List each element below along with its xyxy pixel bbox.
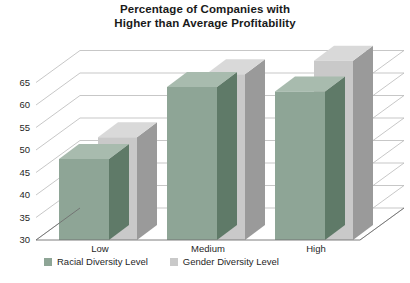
y-axis-tick-60: 60	[4, 100, 30, 110]
bar-racial-medium	[167, 72, 237, 240]
chart-plot-area	[0, 0, 410, 283]
y-axis-tick-45: 45	[4, 168, 30, 178]
bars-group	[59, 46, 373, 240]
legend-label: Racial Diversity Level	[57, 257, 148, 267]
bar-racial-low	[59, 144, 129, 240]
legend-swatch-icon	[44, 258, 52, 266]
chart-legend: Racial Diversity LevelGender Diversity L…	[44, 257, 279, 267]
bar-racial-high	[275, 77, 345, 241]
legend-entry-gender[interactable]: Gender Diversity Level	[170, 257, 279, 267]
legend-swatch-icon	[170, 258, 178, 266]
x-axis-tick-low: Low	[60, 243, 140, 254]
legend-entry-racial[interactable]: Racial Diversity Level	[44, 257, 148, 267]
x-axis-tick-high: High	[276, 243, 356, 254]
y-axis-tick-40: 40	[4, 190, 30, 200]
x-axis-tick-medium: Medium	[168, 243, 248, 254]
chart-canvas	[0, 0, 410, 283]
legend-label: Gender Diversity Level	[183, 257, 279, 267]
y-axis-tick-50: 50	[4, 145, 30, 155]
y-axis-tick-65: 65	[4, 78, 30, 88]
y-axis-tick-30: 30	[4, 235, 30, 245]
y-axis-tick-55: 55	[4, 123, 30, 133]
y-axis-tick-35: 35	[4, 213, 30, 223]
